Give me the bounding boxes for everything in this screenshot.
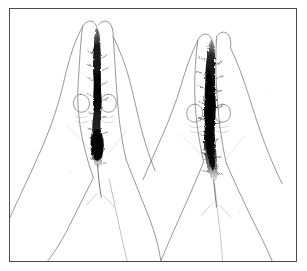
left-shade-lens (91, 129, 104, 161)
figure-drawing (10, 9, 296, 261)
figure-container: Line drawing of two hands, each with ind… (0, 0, 307, 271)
drawing-background (10, 9, 296, 261)
figure-frame (9, 8, 297, 262)
